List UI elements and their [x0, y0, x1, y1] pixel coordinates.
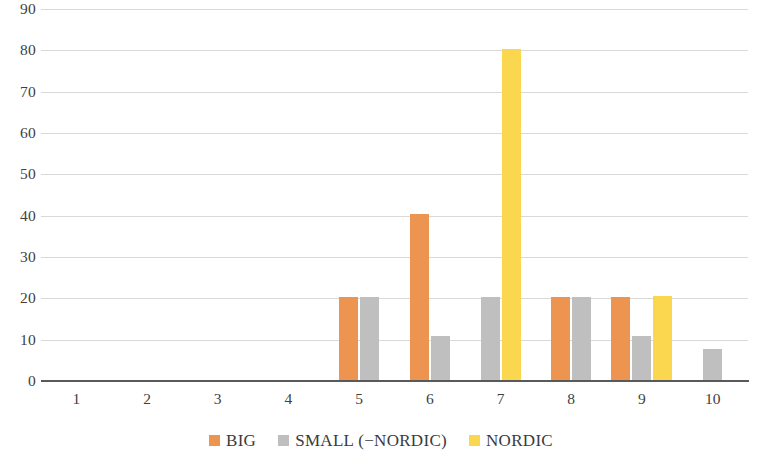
legend-label: BIG [226, 432, 256, 449]
x-axis-tick-label: 9 [607, 388, 678, 410]
bar [339, 297, 358, 381]
x-axis-labels: 12345678910 [41, 388, 748, 414]
legend-swatch-orange [209, 435, 220, 446]
legend-label: SMALL (−NORDIC) [295, 432, 447, 449]
x-axis-tick-label: 10 [677, 388, 748, 410]
bar [572, 297, 591, 381]
x-axis-tick-label: 6 [395, 388, 466, 410]
bar-group [41, 9, 112, 381]
bar [431, 336, 450, 381]
y-axis-tick-label: 70 [2, 84, 36, 100]
bar-group [324, 9, 395, 381]
bar [502, 49, 521, 381]
bar-group [182, 9, 253, 381]
y-axis-tick-label: 60 [2, 125, 36, 141]
legend-label: NORDIC [486, 432, 553, 449]
bar [410, 214, 429, 381]
bar-group [677, 9, 748, 381]
y-axis-tick-label: 80 [2, 42, 36, 58]
legend-item[interactable]: SMALL (−NORDIC) [278, 432, 447, 449]
legend-swatch-yellow [469, 435, 480, 446]
x-axis-tick-label: 5 [324, 388, 395, 410]
y-axis-tick-label: 30 [2, 249, 36, 265]
bar-group [112, 9, 183, 381]
bar-group [607, 9, 678, 381]
bar [632, 336, 651, 381]
bar [360, 297, 379, 381]
y-axis-labels: 0102030405060708090 [0, 9, 36, 381]
bar-group [253, 9, 324, 381]
x-axis-tick-label: 2 [112, 388, 183, 410]
y-axis-tick-label: 50 [2, 166, 36, 182]
bar [611, 297, 630, 381]
bar [703, 349, 722, 381]
y-axis-tick-label: 10 [2, 332, 36, 348]
bar [481, 297, 500, 381]
y-axis-tick-label: 40 [2, 208, 36, 224]
bar [551, 297, 570, 381]
x-axis-line [41, 380, 749, 382]
x-axis-tick-label: 7 [465, 388, 536, 410]
plot-area [41, 9, 748, 381]
legend-swatch-gray [278, 435, 289, 446]
bar [653, 296, 672, 381]
bar-chart: 0102030405060708090 12345678910 BIGSMALL… [0, 0, 762, 466]
x-axis-tick-label: 3 [182, 388, 253, 410]
chart-legend: BIGSMALL (−NORDIC)NORDIC [0, 432, 762, 449]
y-axis-tick-label: 20 [2, 290, 36, 306]
bar-group [465, 9, 536, 381]
legend-item[interactable]: NORDIC [469, 432, 553, 449]
bar-group [395, 9, 466, 381]
y-axis-tick-label: 90 [2, 1, 36, 17]
y-axis-tick-label: 0 [2, 373, 36, 389]
x-axis-tick-label: 8 [536, 388, 607, 410]
bar-group [536, 9, 607, 381]
x-axis-tick-label: 1 [41, 388, 112, 410]
x-axis-tick-label: 4 [253, 388, 324, 410]
legend-item[interactable]: BIG [209, 432, 256, 449]
